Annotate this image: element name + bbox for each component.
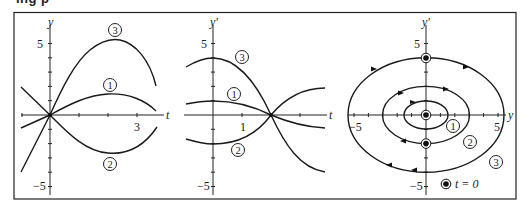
- svg-text:1: 1: [107, 80, 112, 91]
- curve-2-label: 2: [232, 144, 245, 157]
- curve-1-label: 1: [228, 88, 241, 101]
- origin-point: [48, 113, 52, 117]
- ytick-neg5: −5: [197, 179, 210, 193]
- svg-text:1: 1: [450, 121, 455, 132]
- svg-text:3: 3: [493, 157, 498, 168]
- yprime-axis-label: y′: [421, 15, 430, 29]
- svg-text:1: 1: [231, 89, 236, 100]
- ttick-3: 3: [134, 120, 140, 134]
- direction-arrows: [371, 65, 469, 173]
- ytick-neg5: −5: [33, 179, 46, 193]
- panel-yprime-vs-t: y′ t 5 −5 1 3 1 2: [184, 15, 333, 195]
- ytick-neg5: −5: [410, 179, 423, 193]
- arrow-icon: [386, 163, 392, 168]
- orbit-1-label: 1: [447, 120, 460, 133]
- ttick-1: 1: [240, 120, 246, 134]
- start-marker-orbit-2: [421, 139, 431, 149]
- svg-text:2: 2: [467, 137, 472, 148]
- curve-2-label: 2: [104, 158, 117, 171]
- curve-3-label: 3: [109, 24, 122, 37]
- y-axis-label: y: [47, 15, 54, 29]
- ytick-5: 5: [201, 37, 207, 51]
- xtick-5: 5: [494, 120, 500, 134]
- svg-text:2: 2: [107, 159, 112, 170]
- svg-text:3: 3: [112, 25, 117, 36]
- legend-t0: t = 0: [441, 177, 478, 191]
- t-axis-label: t: [329, 108, 333, 122]
- ytick-5: 5: [37, 37, 43, 51]
- curve-2: [186, 88, 325, 144]
- svg-text:3: 3: [239, 52, 244, 63]
- figure: y t 5 −5 3 3 1 2 y′ t 5 −5 1: [0, 0, 529, 212]
- panel-phase-plane: y′ y 5 −5 −5 5 1 2 3 t: [348, 15, 514, 195]
- start-marker-orbit-1: [421, 110, 431, 120]
- curve-1-label: 1: [104, 79, 117, 92]
- panel-y-vs-t: y t 5 −5 3 3 1 2: [21, 15, 170, 195]
- intersection-point: [269, 113, 273, 117]
- t-axis-label: t: [166, 108, 170, 122]
- legend-label: t = 0: [455, 177, 478, 191]
- orbit-2-label: 2: [464, 136, 477, 149]
- yprime-axis-label: y′: [209, 15, 218, 29]
- y-axis-label: y: [507, 108, 514, 122]
- ytick-5: 5: [414, 37, 420, 51]
- orbit-3-label: 3: [490, 156, 503, 169]
- curve-3-label: 3: [236, 51, 249, 64]
- start-marker-orbit-3: [421, 53, 431, 63]
- svg-text:2: 2: [235, 145, 240, 156]
